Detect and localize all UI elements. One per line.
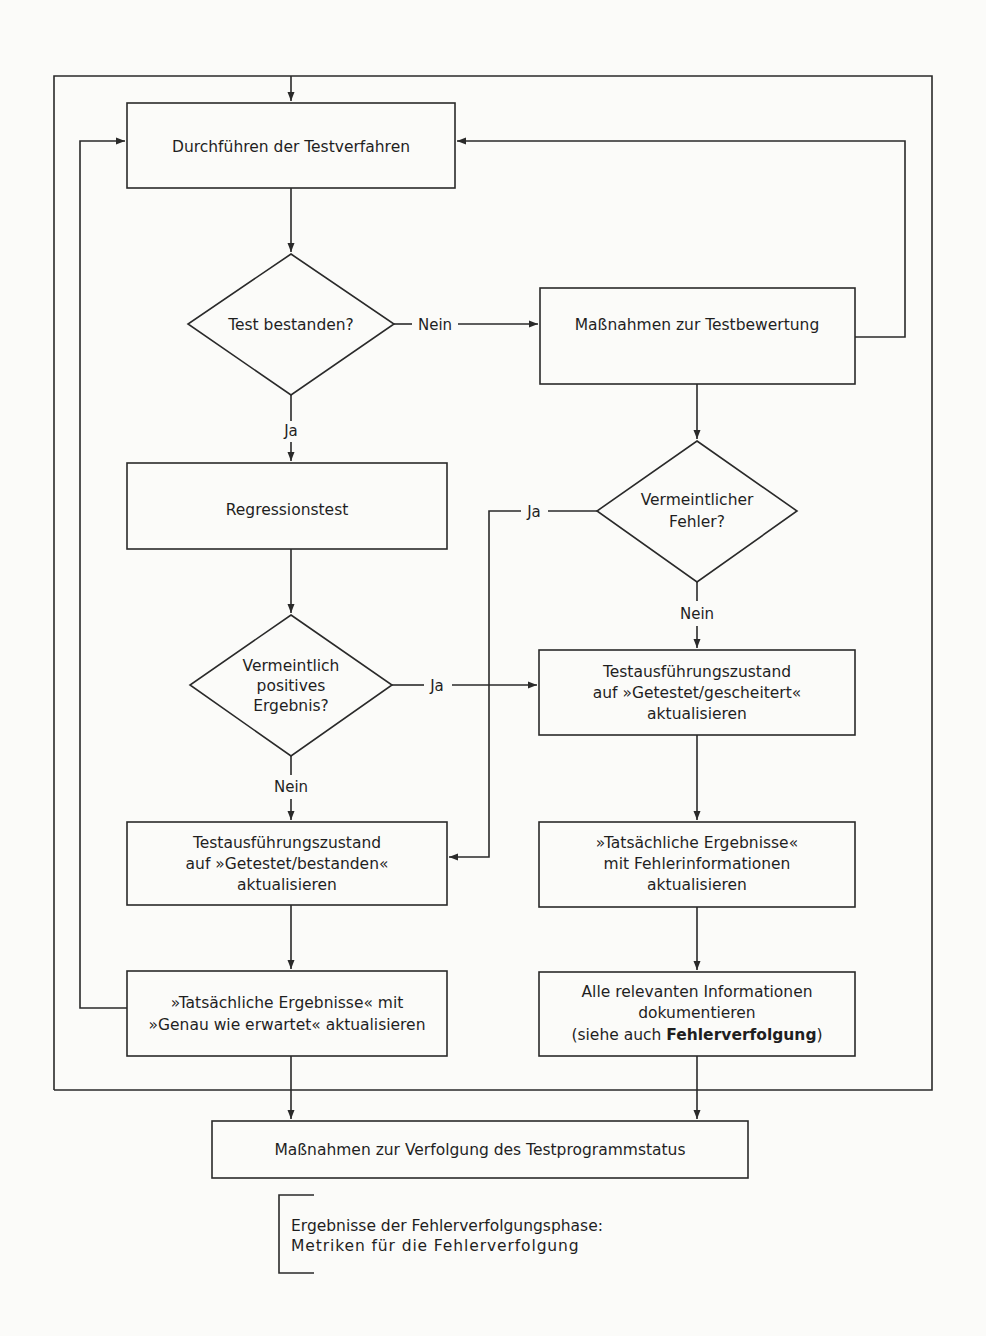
node-label: Vermeintlicher — [641, 491, 754, 509]
process-actual-results-expected: »Tatsächliche Ergebnisse« mit »Genau wie… — [127, 971, 447, 1056]
node-label-suffix: ) — [817, 1026, 823, 1044]
node-label-prefix: (siehe auch — [571, 1026, 666, 1044]
node-label: Maßnahmen zur Verfolgung des Testprogram… — [274, 1141, 685, 1159]
node-label: Regressionstest — [226, 501, 349, 519]
node-label: Durchführen der Testverfahren — [172, 138, 410, 156]
annotation-line: Metriken für die Fehlerverfolgung — [291, 1237, 580, 1255]
node-label: aktualisieren — [647, 705, 747, 723]
process-status-passed: Testausführungszustand auf »Getestet/bes… — [127, 822, 447, 905]
node-label: Vermeintlich — [243, 657, 340, 675]
node-label: aktualisieren — [237, 876, 337, 894]
outer-loop-connector — [54, 76, 932, 1090]
node-label: Test bestanden? — [227, 316, 354, 334]
decision-false-positive: Vermeintlich positives Ergebnis? — [190, 615, 392, 756]
node-label: »Tatsächliche Ergebnisse« mit — [171, 994, 404, 1012]
flowchart-canvas: Durchführen der Testverfahren Test besta… — [0, 0, 986, 1336]
process-regression-test: Regressionstest — [127, 463, 447, 549]
annotation-line: Ergebnisse der Fehlerverfolgungsphase: — [291, 1217, 603, 1235]
node-label: »Genau wie erwartet« aktualisieren — [149, 1016, 426, 1034]
annotation-phase-output: Ergebnisse der Fehlerverfolgungsphase: M… — [279, 1195, 603, 1273]
decision-suspected-defect: Vermeintlicher Fehler? — [597, 441, 797, 582]
edge-label-yes: Ja — [526, 503, 541, 521]
node-label: auf »Getestet/bestanden« — [186, 855, 389, 873]
edge-label-no: Nein — [418, 316, 452, 334]
node-label: Ergebnis? — [253, 697, 329, 715]
node-label: dokumentieren — [638, 1004, 755, 1022]
decision-test-passed: Test bestanden? — [188, 254, 394, 395]
edge-label-yes: Ja — [283, 422, 298, 440]
cross-reference-defect-tracking: Fehlerverfolgung — [666, 1026, 816, 1044]
loop-back-left-connector — [80, 141, 127, 1008]
connector-yes-route — [449, 511, 521, 857]
process-test-evaluation: Maßnahmen zur Testbewertung — [540, 288, 855, 384]
node-label: positives — [257, 677, 326, 695]
node-label: Testausführungszustand — [192, 834, 381, 852]
edge-label-yes: Ja — [429, 677, 444, 695]
node-label: mit Fehlerinformationen — [604, 855, 791, 873]
process-track-status: Maßnahmen zur Verfolgung des Testprogram… — [212, 1121, 748, 1178]
edge-label-no: Nein — [680, 605, 714, 623]
process-execute-tests: Durchführen der Testverfahren — [127, 103, 455, 188]
node-label: auf »Getestet/gescheitert« — [593, 684, 802, 702]
edge-label-no: Nein — [274, 778, 308, 796]
node-label: Testausführungszustand — [602, 663, 791, 681]
node-label: Fehler? — [669, 513, 725, 531]
process-status-failed: Testausführungszustand auf »Getestet/ges… — [539, 650, 855, 735]
node-label: Maßnahmen zur Testbewertung — [575, 316, 819, 334]
node-label: (siehe auch Fehlerverfolgung) — [571, 1026, 822, 1044]
process-actual-results-defect: »Tatsächliche Ergebnisse« mit Fehlerinfo… — [539, 822, 855, 907]
node-label: »Tatsächliche Ergebnisse« — [596, 834, 798, 852]
node-label: Alle relevanten Informationen — [581, 983, 812, 1001]
process-document-info: Alle relevanten Informationen dokumentie… — [539, 972, 855, 1056]
node-label: aktualisieren — [647, 876, 747, 894]
